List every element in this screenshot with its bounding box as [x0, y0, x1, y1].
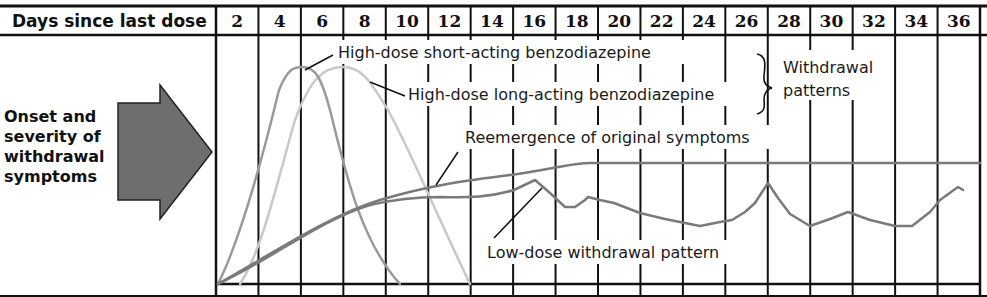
- x-tick-label: 14: [480, 11, 504, 31]
- label-withdrawal: Withdrawal: [783, 58, 873, 77]
- x-axis-tick-labels: 24681012141618202224262830323436: [231, 11, 970, 31]
- label-long-acting: High-dose long-acting benzodiazepine: [408, 85, 714, 104]
- series-low-dose: [218, 180, 963, 284]
- x-tick-label: 4: [274, 11, 286, 31]
- x-tick-label: 20: [607, 11, 631, 31]
- x-tick-label: 28: [777, 11, 801, 31]
- arrow-icon: [118, 85, 212, 219]
- x-tick-label: 36: [947, 11, 971, 31]
- label-patterns: patterns: [783, 81, 850, 100]
- x-tick-label: 22: [650, 11, 674, 31]
- x-tick-label: 6: [316, 11, 328, 31]
- x-axis-title: Days since last dose: [12, 11, 207, 31]
- x-tick-label: 32: [862, 11, 886, 31]
- y-label-line-3: withdrawal: [4, 147, 105, 166]
- brace-icon: [757, 54, 772, 114]
- x-tick-label: 8: [359, 11, 371, 31]
- label-reemergence: Reemergence of original symptoms: [465, 128, 750, 147]
- y-label-line-1: Onset and: [4, 107, 96, 126]
- x-tick-label: 18: [565, 11, 589, 31]
- withdrawal-chart: Days since last dose 2468101214161820222…: [0, 0, 987, 297]
- x-tick-label: 24: [692, 11, 716, 31]
- y-label-line-4: symptoms: [4, 167, 97, 186]
- chart-svg: Days since last dose 2468101214161820222…: [0, 0, 987, 297]
- x-tick-label: 30: [820, 11, 844, 31]
- annotations: High-dose short-acting benzodiazepine Hi…: [305, 40, 880, 264]
- x-tick-label: 34: [904, 11, 928, 31]
- x-tick-label: 26: [735, 11, 759, 31]
- x-tick-label: 12: [438, 11, 462, 31]
- series-short-acting: [218, 67, 400, 284]
- label-short-acting: High-dose short-acting benzodiazepine: [338, 43, 651, 62]
- y-axis-label: Onset and severity of withdrawal symptom…: [4, 107, 105, 186]
- label-low-dose: Low-dose withdrawal pattern: [487, 243, 719, 262]
- x-tick-label: 16: [522, 11, 546, 31]
- y-label-line-2: severity of: [4, 127, 102, 146]
- x-tick-label: 10: [395, 11, 419, 31]
- x-tick-label: 2: [231, 11, 243, 31]
